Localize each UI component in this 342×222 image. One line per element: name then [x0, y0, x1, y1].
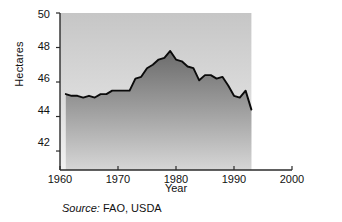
y-axis-label: Hectares [13, 19, 25, 109]
source-text: FAO, USDA [100, 202, 162, 214]
chart-figure: Hectares Year 50 48 46 44 42 1960 1970 1… [0, 0, 342, 222]
x-tick-label-1980: 1980 [156, 174, 196, 185]
y-tick-label-46: 46 [24, 73, 50, 84]
source-caption: Source: FAO, USDA [62, 202, 162, 214]
y-tick-label-42: 42 [24, 137, 50, 148]
x-tick-label-1990: 1990 [214, 174, 254, 185]
x-tick-label-1960: 1960 [40, 174, 80, 185]
x-tick-label-1970: 1970 [98, 174, 138, 185]
x-tick-label-2000: 2000 [272, 174, 312, 185]
y-tick-label-48: 48 [24, 41, 50, 52]
source-prefix: Source: [62, 202, 100, 214]
y-tick-label-50: 50 [24, 9, 50, 20]
y-tick-label-44: 44 [24, 105, 50, 116]
